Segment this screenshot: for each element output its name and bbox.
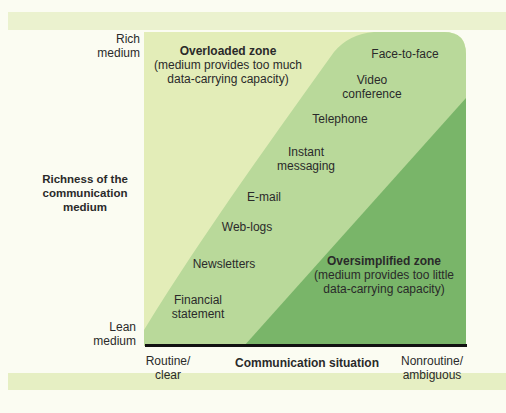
media-email: E-mail xyxy=(234,190,294,204)
y-axis-title: Richness of the communication medium xyxy=(30,172,140,214)
oversimplified-zone-title: Oversimplified zone xyxy=(304,254,464,268)
financial-line2: statement xyxy=(158,307,238,321)
video-line2: conference xyxy=(322,87,422,101)
overloaded-zone-line1: (medium provides too much xyxy=(148,58,308,72)
financial-line1: Financial xyxy=(158,293,238,307)
x-axis-title: Communication situation xyxy=(232,356,382,370)
overloaded-zone-title: Overloaded zone xyxy=(148,44,308,58)
nonroutine-label-line2: ambiguous xyxy=(392,368,472,382)
media-financial-statement: Financial statement xyxy=(158,293,238,321)
media-video-conference: Video conference xyxy=(322,73,422,101)
lean-label-line2: medium xyxy=(60,334,136,348)
media-weblogs: Web-logs xyxy=(212,220,282,234)
media-face-to-face: Face-to-face xyxy=(355,47,455,61)
overloaded-zone-line2: data-carrying capacity) xyxy=(148,72,308,86)
lean-label-line1: Lean xyxy=(60,320,136,334)
decorative-band-top xyxy=(8,12,506,30)
nonroutine-label: Nonroutine/ ambiguous xyxy=(392,354,472,382)
media-telephone: Telephone xyxy=(300,112,380,126)
rich-medium-label: Rich medium xyxy=(60,32,140,60)
oversimplified-zone-label: Oversimplified zone (medium provides too… xyxy=(304,254,464,296)
overloaded-zone-label: Overloaded zone (medium provides too muc… xyxy=(148,44,308,86)
y-axis-title-line2: communication xyxy=(30,186,140,200)
video-line1: Video xyxy=(322,73,422,87)
rich-label-line1: Rich xyxy=(60,32,140,46)
x-axis-line xyxy=(145,344,467,347)
oversimplified-zone-line1: (medium provides too little xyxy=(304,268,464,282)
oversimplified-zone-line2: data-carrying capacity) xyxy=(304,282,464,296)
media-newsletters: Newsletters xyxy=(184,257,264,271)
rich-label-line2: medium xyxy=(60,46,140,60)
im-line1: Instant xyxy=(266,145,346,159)
routine-label-line1: Routine/ xyxy=(140,354,196,368)
y-axis-title-line1: Richness of the xyxy=(30,172,140,186)
lean-medium-label: Lean medium xyxy=(60,320,136,348)
media-instant-messaging: Instant messaging xyxy=(266,145,346,173)
y-axis-title-line3: medium xyxy=(30,200,140,214)
im-line2: messaging xyxy=(266,159,346,173)
nonroutine-label-line1: Nonroutine/ xyxy=(392,354,472,368)
routine-label: Routine/ clear xyxy=(140,354,196,382)
routine-label-line2: clear xyxy=(140,368,196,382)
